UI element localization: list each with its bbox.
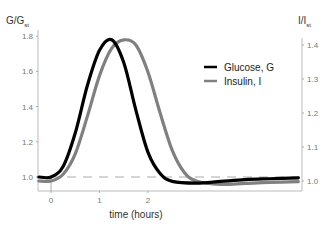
y-left-tick-label: 1.4 bbox=[22, 103, 34, 112]
y-left-tick-label: 1.2 bbox=[22, 138, 34, 147]
y-right-tick-label: 1.4 bbox=[307, 41, 319, 50]
legend-insulin-label: Insulin, I bbox=[224, 76, 261, 87]
x-tick-label: 1 bbox=[97, 196, 102, 205]
legend-glucose-label: Glucose, G bbox=[224, 62, 274, 73]
x-tick-label: 0 bbox=[49, 196, 54, 205]
x-tick-label: 2 bbox=[146, 196, 151, 205]
y-left-tick-label: 1.0 bbox=[22, 173, 34, 182]
glucose-insulin-chart: 1.01.21.41.61.81.01.11.21.31.4012 G/Gst … bbox=[0, 0, 329, 230]
axes bbox=[38, 30, 302, 191]
y-right-tick-label: 1.3 bbox=[307, 75, 319, 84]
y-right-tick-label: 1.1 bbox=[307, 143, 319, 152]
legend: Glucose, G Insulin, I bbox=[204, 62, 274, 87]
glucose-curve bbox=[39, 39, 298, 183]
x-axis-title: time (hours) bbox=[109, 209, 162, 220]
y-right-tick-label: 1.2 bbox=[307, 109, 319, 118]
y-left-title: G/Gst bbox=[6, 15, 29, 28]
y-left-tick-label: 1.6 bbox=[22, 67, 34, 76]
y-left-tick-label: 1.8 bbox=[22, 32, 34, 41]
y-right-title: I/Ist bbox=[298, 15, 311, 28]
y-right-tick-label: 1.0 bbox=[307, 177, 319, 186]
